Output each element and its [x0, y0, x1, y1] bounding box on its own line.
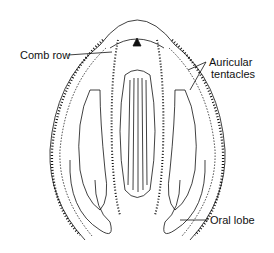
- comb-row-right-inner: [155, 40, 163, 215]
- auricle-left: [79, 90, 107, 210]
- label-oral-lobe: Oral lobe: [210, 214, 255, 226]
- comb-row-left-inner: [112, 40, 120, 215]
- leader-comb-row: [68, 52, 112, 55]
- auricle-right: [168, 90, 196, 210]
- label-auricular-tentacles-line1: Auricular: [209, 56, 252, 68]
- pharynx: [120, 70, 155, 198]
- label-comb-row: Comb row: [20, 49, 70, 61]
- label-auricular-tentacles-line2: tentacles: [211, 68, 255, 80]
